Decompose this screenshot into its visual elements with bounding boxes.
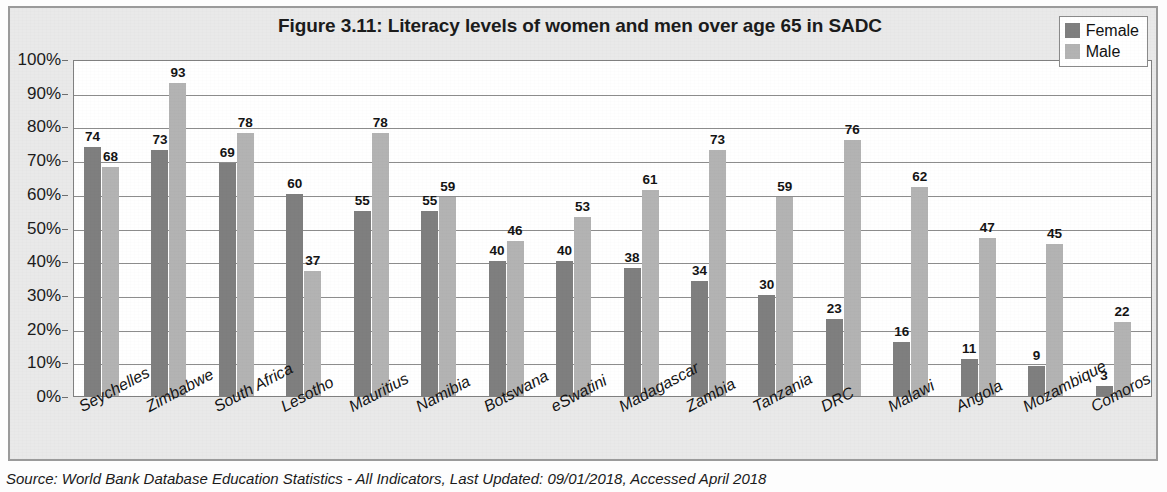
legend-swatch-icon	[1065, 44, 1080, 59]
bar-male	[102, 167, 119, 396]
bar-value-label: 55	[355, 193, 370, 208]
bar-value-label: 40	[557, 243, 572, 258]
bar-group: 3473	[681, 61, 748, 396]
bar-value-label: 37	[305, 253, 320, 268]
legend-item[interactable]: Female	[1065, 20, 1139, 41]
y-tick-label: 50%	[27, 219, 61, 239]
bar-male	[1046, 244, 1063, 396]
scanned-page: Figure 3.11: Literacy levels of women an…	[0, 0, 1167, 492]
bar-value-label: 53	[575, 199, 590, 214]
bar-group: 322	[1086, 61, 1153, 396]
bar-group: 5559	[411, 61, 478, 396]
bar-value-label: 73	[152, 132, 167, 147]
y-tick-label: 60%	[27, 185, 61, 205]
y-tick-label: 90%	[27, 84, 61, 104]
bar-male	[776, 197, 793, 396]
bar-value-label: 78	[238, 115, 253, 130]
y-tick-mark	[62, 161, 68, 162]
bar-group: 1662	[883, 61, 950, 396]
bar-value-label: 74	[85, 129, 100, 144]
bar-value-label: 93	[170, 65, 185, 80]
bar-male	[911, 187, 928, 396]
y-tick-label: 100%	[18, 50, 61, 70]
bar-value-label: 16	[894, 324, 909, 339]
y-tick-mark	[62, 262, 68, 263]
x-axis: SeychellesZimbabweSouth AfricaLesothoMau…	[73, 400, 1152, 470]
bar-male	[237, 133, 254, 396]
bar-value-label: 60	[287, 176, 302, 191]
bar-value-label: 76	[845, 122, 860, 137]
legend-label: Male	[1086, 43, 1121, 61]
bar-group: 6037	[276, 61, 343, 396]
bar-value-label: 45	[1047, 226, 1062, 241]
y-tick-mark	[62, 363, 68, 364]
legend-item[interactable]: Male	[1065, 41, 1139, 62]
bar-value-label: 23	[827, 301, 842, 316]
bar-male	[372, 133, 389, 396]
bar-value-label: 46	[508, 223, 523, 238]
bar-value-label: 59	[440, 179, 455, 194]
bar-group: 1147	[951, 61, 1018, 396]
bar-value-label: 11	[962, 341, 976, 356]
y-tick-label: 0%	[36, 387, 61, 407]
bar-female	[151, 150, 168, 396]
bar-female	[421, 211, 438, 396]
bar-value-label: 69	[220, 145, 235, 160]
bar-group: 2376	[816, 61, 883, 396]
bar-group: 7468	[74, 61, 141, 396]
bar-male	[979, 238, 996, 396]
bar-male	[169, 83, 186, 396]
bar-female	[84, 147, 101, 396]
bar-female	[556, 261, 573, 396]
bar-value-label: 30	[759, 277, 774, 292]
y-tick-mark	[62, 60, 68, 61]
y-tick-mark	[62, 127, 68, 128]
bar-value-label: 22	[1115, 304, 1130, 319]
y-tick-label: 40%	[27, 252, 61, 272]
bar-value-label: 34	[692, 263, 707, 278]
y-tick-mark	[62, 397, 68, 398]
y-tick-mark	[62, 195, 68, 196]
bar-group: 6978	[209, 61, 276, 396]
y-tick-label: 10%	[27, 353, 61, 373]
bar-male	[709, 150, 726, 396]
bar-value-label: 73	[710, 132, 725, 147]
legend-label: Female	[1086, 22, 1139, 40]
bar-female	[826, 319, 843, 397]
bar-female	[624, 268, 641, 396]
bar-female	[354, 211, 371, 396]
y-axis: 0%10%20%30%40%50%60%70%80%90%100%	[10, 60, 68, 397]
y-tick-label: 80%	[27, 117, 61, 137]
bar-group: 7393	[141, 61, 208, 396]
bar-group: 4053	[546, 61, 613, 396]
bar-group: 945	[1018, 61, 1085, 396]
bar-value-label: 55	[422, 193, 437, 208]
bars-layer: 7468739369786037557855594046405338613473…	[74, 61, 1151, 396]
bar-male	[507, 241, 524, 396]
y-tick-mark	[62, 229, 68, 230]
y-tick-mark	[62, 296, 68, 297]
bar-group: 3059	[748, 61, 815, 396]
bar-female	[758, 295, 775, 396]
bar-value-label: 59	[777, 179, 792, 194]
legend-swatch-icon	[1065, 23, 1080, 38]
bar-female	[489, 261, 506, 396]
chart-legend: FemaleMale	[1059, 16, 1148, 67]
bar-male	[642, 190, 659, 396]
bar-value-label: 62	[912, 169, 927, 184]
y-tick-mark	[62, 94, 68, 95]
figure-frame: Figure 3.11: Literacy levels of women an…	[8, 6, 1158, 461]
bar-male	[574, 217, 591, 396]
bar-female	[219, 163, 236, 396]
bar-value-label: 78	[373, 115, 388, 130]
y-tick-label: 70%	[27, 151, 61, 171]
source-caption: Source: World Bank Database Education St…	[6, 470, 766, 487]
chart-title: Figure 3.11: Literacy levels of women an…	[50, 15, 1110, 37]
bar-value-label: 9	[1033, 348, 1041, 363]
bar-group: 3861	[614, 61, 681, 396]
y-tick-label: 20%	[27, 320, 61, 340]
plot-area: 7468739369786037557855594046405338613473…	[73, 60, 1152, 397]
bar-group: 4046	[479, 61, 546, 396]
bar-value-label: 61	[642, 172, 657, 187]
bar-value-label: 38	[624, 250, 639, 265]
